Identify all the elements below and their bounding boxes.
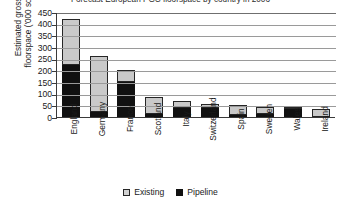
gridline bbox=[57, 95, 336, 96]
y-axis-tick-label: 350 bbox=[26, 32, 52, 41]
x-axis-labels: EnglandGermanyFranceScotlandItalySwitzer… bbox=[56, 119, 335, 179]
y-axis-tick bbox=[52, 60, 57, 61]
gridline bbox=[57, 71, 336, 72]
x-axis-label-slot: Sweden bbox=[256, 119, 274, 179]
x-axis-label: Scotland bbox=[154, 103, 163, 136]
gridline bbox=[57, 60, 336, 61]
x-axis-label: Spain bbox=[237, 108, 246, 129]
gridline bbox=[57, 25, 336, 26]
x-axis-label: Italy bbox=[182, 111, 191, 126]
y-axis-tick-label: 100 bbox=[26, 90, 52, 99]
x-axis-label-slot: Germany bbox=[89, 119, 107, 179]
y-axis-tick-label: 200 bbox=[26, 67, 52, 76]
bar-column[interactable] bbox=[173, 13, 191, 117]
y-axis-tick-label: 250 bbox=[26, 55, 52, 64]
x-axis-label: France bbox=[126, 106, 135, 132]
x-axis-label-slot: Scotland bbox=[145, 119, 163, 179]
legend-item[interactable]: Existing bbox=[123, 187, 164, 197]
x-axis-label-slot: Ireland bbox=[312, 119, 330, 179]
y-axis-tick bbox=[52, 106, 57, 107]
x-axis-label-slot: Italy bbox=[173, 119, 191, 179]
bar-column[interactable] bbox=[312, 13, 330, 117]
bar-column[interactable] bbox=[256, 13, 274, 117]
y-axis-tick bbox=[52, 13, 57, 14]
x-axis-label: Wales bbox=[293, 108, 302, 131]
y-axis-tick bbox=[52, 25, 57, 26]
x-axis-label-slot: England bbox=[61, 119, 79, 179]
bar-column[interactable] bbox=[229, 13, 247, 117]
bar-column[interactable] bbox=[284, 13, 302, 117]
chart-title: Forecast European PGC floorspace by coun… bbox=[0, 0, 341, 5]
y-axis-tick bbox=[52, 95, 57, 96]
bar-column[interactable] bbox=[62, 13, 80, 117]
y-axis-tick bbox=[52, 48, 57, 49]
x-axis-label-slot: France bbox=[117, 119, 135, 179]
pipeline-swatch-icon bbox=[176, 189, 183, 196]
bar-column[interactable] bbox=[117, 13, 135, 117]
y-axis-tick bbox=[52, 83, 57, 84]
bar-segment-existing[interactable] bbox=[62, 19, 80, 65]
x-axis-label: Switzerland bbox=[209, 97, 218, 140]
chart-legend: ExistingPipeline bbox=[0, 187, 341, 197]
x-axis-label-slot: Spain bbox=[228, 119, 246, 179]
y-axis-tick-label: 150 bbox=[26, 79, 52, 88]
gridline bbox=[57, 48, 336, 49]
x-axis-label-slot: Wales bbox=[284, 119, 302, 179]
legend-item[interactable]: Pipeline bbox=[176, 187, 218, 197]
y-axis-tick bbox=[52, 36, 57, 37]
x-axis-label: Sweden bbox=[265, 104, 274, 134]
x-axis-label: Germany bbox=[98, 102, 107, 136]
x-axis-label: England bbox=[70, 104, 79, 135]
y-axis-tick bbox=[52, 71, 57, 72]
y-axis-tick-label: 300 bbox=[26, 44, 52, 53]
gridline bbox=[57, 36, 336, 37]
x-axis-label-slot: Switzerland bbox=[200, 119, 218, 179]
chart-container: Forecast European PGC floorspace by coun… bbox=[0, 0, 341, 202]
y-axis-tick-label: 50 bbox=[26, 102, 52, 111]
legend-label: Existing bbox=[134, 187, 164, 197]
y-axis-tick-label: 400 bbox=[26, 20, 52, 29]
y-axis-tick-label: 450 bbox=[26, 9, 52, 18]
gridline bbox=[57, 83, 336, 84]
existing-swatch-icon bbox=[123, 189, 130, 196]
legend-label: Pipeline bbox=[187, 187, 218, 197]
x-axis-label: Ireland bbox=[321, 106, 330, 132]
y-axis-tick-label: 0 bbox=[26, 114, 52, 123]
